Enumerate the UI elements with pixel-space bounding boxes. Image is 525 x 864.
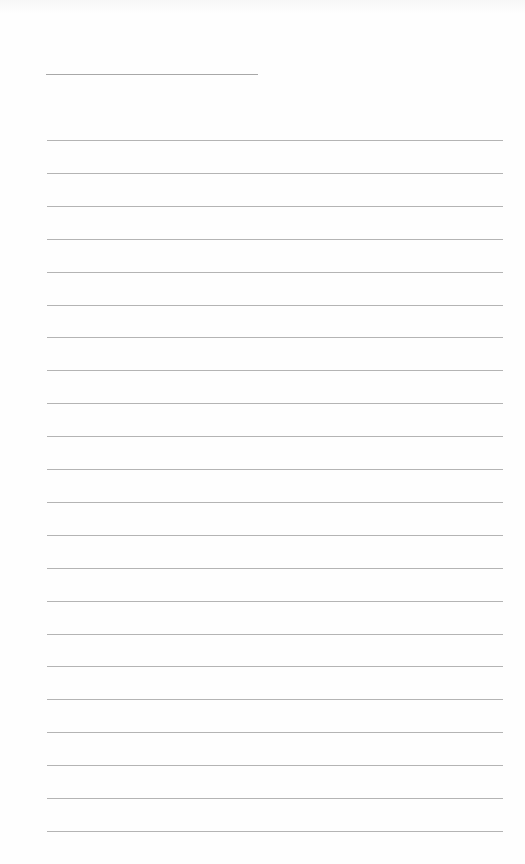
- ruled-line: [47, 798, 503, 799]
- ruled-line: [47, 568, 503, 569]
- ruled-line: [47, 469, 503, 470]
- ruled-line: [47, 634, 503, 635]
- ruled-line: [47, 140, 503, 141]
- ruled-line: [47, 436, 503, 437]
- ruled-line: [47, 699, 503, 700]
- ruled-line: [47, 765, 503, 766]
- ruled-line: [47, 337, 503, 338]
- ruled-line: [47, 206, 503, 207]
- ruled-line: [47, 831, 503, 832]
- ruled-lines: [0, 0, 525, 864]
- lined-paper-page: [0, 0, 525, 864]
- ruled-line: [47, 403, 503, 404]
- ruled-line: [47, 173, 503, 174]
- ruled-line: [47, 502, 503, 503]
- ruled-line: [47, 601, 503, 602]
- ruled-line: [47, 535, 503, 536]
- ruled-line: [47, 666, 503, 667]
- ruled-line: [47, 732, 503, 733]
- ruled-line: [47, 370, 503, 371]
- ruled-line: [47, 272, 503, 273]
- ruled-line: [47, 239, 503, 240]
- ruled-line: [47, 305, 503, 306]
